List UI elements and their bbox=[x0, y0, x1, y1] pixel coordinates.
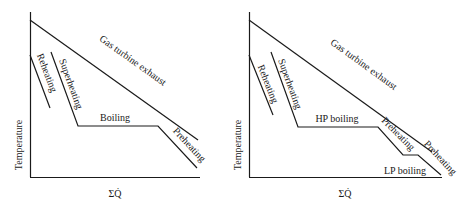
right-diagram: Temperature ΣQ̇ Gas turbine exhaust Rehe… bbox=[232, 12, 459, 199]
right-preheating-hp-label: Preheating bbox=[379, 115, 417, 153]
left-y-axis-label: Temperature bbox=[13, 119, 24, 170]
left-diagram: Temperature ΣQ̇ Gas turbine exhaust Rehe… bbox=[13, 12, 208, 199]
right-lp-boiling-label: LP boiling bbox=[384, 165, 426, 176]
heat-recovery-diagrams: Temperature ΣQ̇ Gas turbine exhaust Rehe… bbox=[0, 0, 460, 208]
left-boiling-label: Boiling bbox=[100, 112, 130, 123]
right-y-axis-label: Temperature bbox=[232, 119, 243, 170]
right-hp-boiling-label: HP boiling bbox=[315, 113, 358, 124]
right-preheating-lp-label: Preheating bbox=[422, 138, 459, 177]
left-preheating-label: Preheating bbox=[171, 125, 208, 164]
left-superheating-label: Superheating bbox=[57, 57, 85, 110]
left-gas-label: Gas turbine exhaust bbox=[98, 33, 169, 88]
right-superheating-label: Superheating bbox=[276, 57, 304, 110]
right-gas-label: Gas turbine exhaust bbox=[329, 36, 400, 92]
left-x-axis-label: ΣQ̇ bbox=[108, 188, 122, 199]
left-reheating-label: Reheating bbox=[35, 52, 60, 94]
right-x-axis-label: ΣQ̇ bbox=[338, 188, 352, 199]
